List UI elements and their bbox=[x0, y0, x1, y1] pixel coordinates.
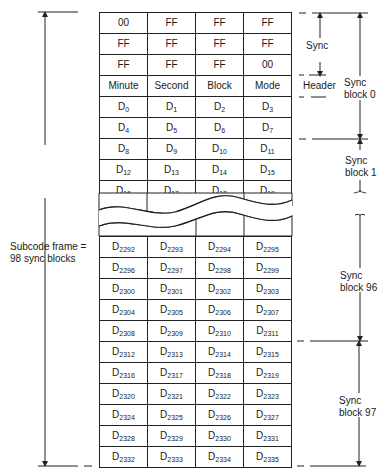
subcode-frame-label-line1: Subcode frame = bbox=[10, 241, 86, 253]
subcode-frame-diagram: 00FFFFFFFFFFFFFFFFFFFF00MinuteSecondBloc… bbox=[0, 0, 387, 472]
sync-block-0-line2: block 0 bbox=[344, 89, 376, 101]
subcode-frame-dimension bbox=[38, 12, 92, 466]
break-wave bbox=[99, 193, 292, 236]
subcode-frame-label-line2: 98 sync blocks bbox=[10, 253, 86, 265]
sync-label: Sync bbox=[306, 40, 328, 52]
sync-block-97-label: Sync block 97 bbox=[339, 395, 376, 419]
sync-block-1-line1: Sync bbox=[345, 155, 377, 167]
sync-block-97-line1: Sync bbox=[339, 395, 376, 407]
sync-block-1-label: Sync block 1 bbox=[345, 155, 377, 179]
header-label: Header bbox=[303, 80, 336, 92]
sync-block-0-label: Sync block 0 bbox=[344, 77, 376, 101]
sync-block-0-line1: Sync bbox=[344, 77, 376, 89]
sync-block-1-line2: block 1 bbox=[345, 167, 377, 179]
annotation-lines bbox=[0, 0, 387, 472]
sync-block-97-line2: block 97 bbox=[339, 407, 376, 419]
subcode-frame-label: Subcode frame = 98 sync blocks bbox=[10, 241, 86, 265]
sync-block-96-line1: Sync bbox=[340, 270, 377, 282]
sync-block-96-label: Sync block 96 bbox=[340, 270, 377, 294]
sync-block-96-line2: block 96 bbox=[340, 282, 377, 294]
